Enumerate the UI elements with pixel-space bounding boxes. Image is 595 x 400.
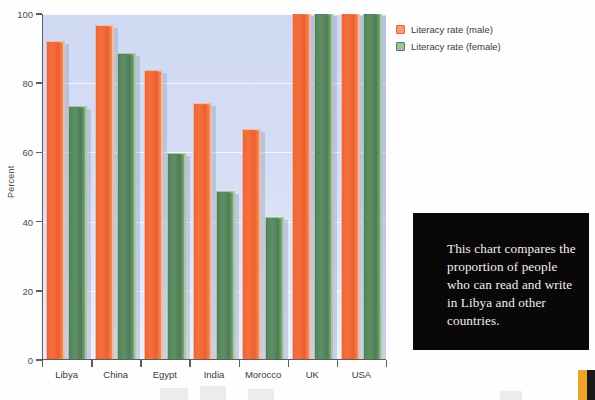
x-axis-label-china: China: [103, 369, 128, 380]
x-axis-label-morocco: Morocco: [245, 369, 281, 380]
legend-label: Literacy rate (male): [411, 24, 493, 35]
x-axis-tick: [337, 360, 338, 367]
bar-shadow: [382, 16, 386, 359]
y-axis-tick: [36, 82, 42, 84]
y-axis-tick-label: 60: [22, 147, 33, 158]
bar-body: [265, 217, 284, 359]
scan-artifact: [248, 389, 274, 400]
y-axis-tick-label: 80: [22, 78, 33, 89]
bar-body: [193, 103, 212, 359]
y-axis-tick-label: 20: [22, 285, 33, 296]
bar-body: [363, 14, 382, 359]
bar-shadow: [186, 156, 190, 359]
x-axis-label-libya: Libya: [55, 369, 78, 380]
x-axis-tick: [239, 360, 240, 367]
x-axis-label-india: India: [204, 369, 225, 380]
bar-china-male: [95, 25, 114, 359]
bar-egypt-male: [144, 70, 163, 359]
chart-page: Percent 020406080100 LibyaChinaEgyptIndi…: [0, 0, 595, 400]
bar-inner: [146, 72, 161, 359]
y-axis-title: Percent: [6, 118, 16, 198]
bar-body: [314, 14, 333, 359]
plot-area: [42, 14, 386, 360]
bar-chart-figure: Percent 020406080100 LibyaChinaEgyptIndi…: [0, 0, 400, 400]
legend-swatch-male-icon: [396, 25, 405, 34]
bar-body: [341, 14, 360, 359]
x-axis-label-uk: UK: [306, 369, 319, 380]
bar-morocco-male: [242, 129, 261, 359]
page-edge-marker: [587, 370, 595, 400]
chart-legend: Literacy rate (male)Literacy rate (femal…: [396, 24, 576, 58]
bar-body: [46, 41, 65, 359]
bar-inner: [343, 15, 358, 359]
bar-uk-female: [314, 14, 333, 359]
bar-body: [144, 70, 163, 359]
bar-uk-male: [292, 14, 311, 359]
bar-india-male: [193, 103, 212, 359]
bar-usa-female: [363, 14, 382, 359]
x-axis-tick: [42, 360, 43, 367]
bar-inner: [119, 55, 134, 359]
bar-shadow: [284, 220, 288, 359]
bar-body: [242, 129, 261, 359]
caption-box: This chart compares the proportion of pe…: [413, 213, 589, 350]
bar-body: [95, 25, 114, 359]
bar-usa-male: [341, 14, 360, 359]
bar-shadow: [235, 194, 239, 359]
y-axis-tick: [36, 13, 42, 15]
x-axis-tick: [91, 360, 92, 367]
bar-morocco-female: [265, 217, 284, 359]
x-axis-label-egypt: Egypt: [153, 369, 177, 380]
bar-inner: [294, 15, 309, 359]
bar-inner: [218, 193, 233, 359]
x-axis-tick: [386, 360, 387, 367]
bar-inner: [169, 155, 184, 359]
x-axis-label-usa: USA: [352, 369, 372, 380]
bar-body: [68, 106, 87, 359]
bar-body: [167, 153, 186, 359]
legend-swatch-female-icon: [396, 42, 405, 51]
bar-body: [117, 53, 136, 359]
y-axis-tick: [36, 152, 42, 154]
plot-wrap: 020406080100: [42, 14, 386, 360]
x-axis-tick: [288, 360, 289, 367]
bar-inner: [267, 219, 282, 359]
bar-inner: [97, 27, 112, 359]
y-axis-tick-label: 0: [28, 355, 33, 366]
bar-china-female: [117, 53, 136, 359]
bar-shadow: [87, 109, 91, 359]
scan-artifact: [200, 386, 226, 400]
bar-libya-male: [46, 41, 65, 359]
bar-shadow: [333, 16, 337, 359]
bar-body: [292, 14, 311, 359]
x-axis-tick: [189, 360, 190, 367]
bar-inner: [70, 108, 85, 359]
y-axis-tick-label: 100: [17, 9, 33, 20]
bar-inner: [316, 15, 331, 359]
y-axis-tick-label: 40: [22, 216, 33, 227]
bar-egypt-female: [167, 153, 186, 359]
y-axis-tick: [36, 290, 42, 292]
bar-india-female: [216, 191, 235, 359]
scan-artifact: [160, 388, 188, 400]
bar-inner: [195, 105, 210, 359]
bar-inner: [48, 43, 63, 359]
legend-item-male[interactable]: Literacy rate (male): [396, 24, 576, 35]
bar-inner: [365, 15, 380, 359]
bar-libya-female: [68, 106, 87, 359]
scan-artifact: [500, 391, 522, 400]
gridline: [43, 14, 386, 15]
caption-text: This chart compares the proportion of pe…: [447, 240, 579, 330]
y-axis-tick: [36, 221, 42, 223]
page-edge-marker: [578, 370, 587, 400]
bar-body: [216, 191, 235, 359]
bar-shadow: [136, 56, 140, 359]
x-axis-tick: [140, 360, 141, 367]
legend-label: Literacy rate (female): [411, 41, 501, 52]
bar-inner: [244, 131, 259, 359]
legend-item-female[interactable]: Literacy rate (female): [396, 41, 576, 52]
